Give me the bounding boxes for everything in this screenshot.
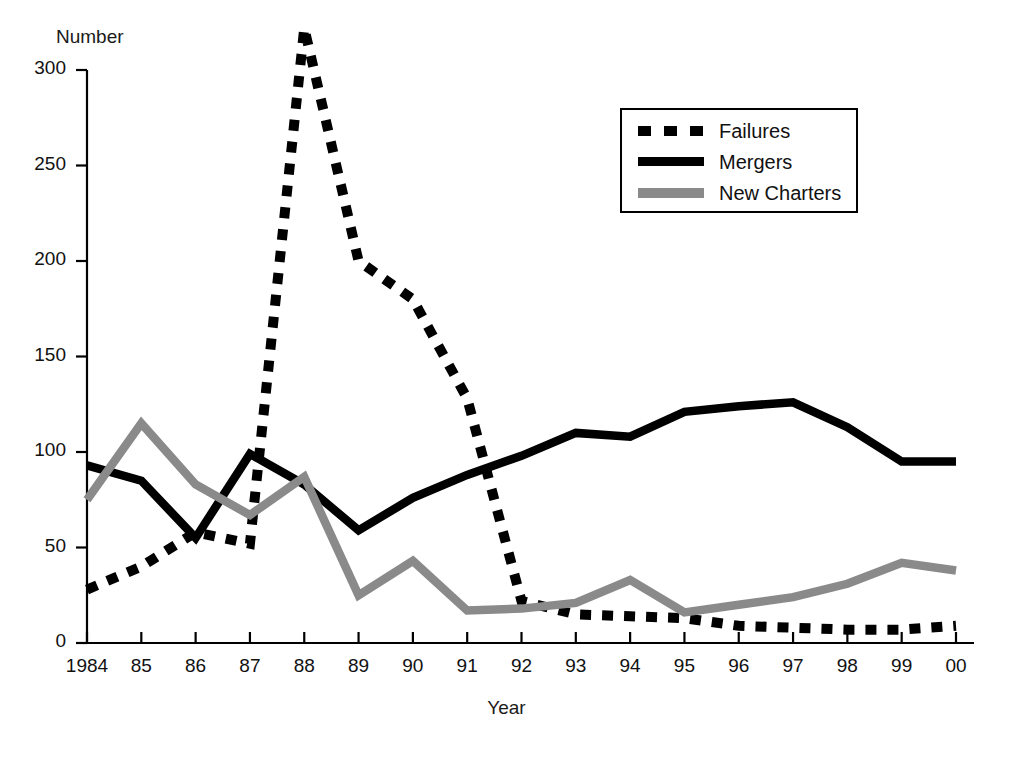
legend-swatch-solid-black-icon (638, 157, 704, 166)
legend-item-new-charters[interactable]: New Charters (622, 177, 856, 208)
legend-item-mergers[interactable]: Mergers (622, 146, 856, 177)
line-chart: Number Year 050100150200250300 198485868… (0, 0, 1013, 758)
legend-item-failures[interactable]: Failures (622, 115, 856, 146)
legend-swatch-dotted-black-icon (638, 126, 704, 136)
plot-area (0, 0, 1013, 758)
legend-item-label: New Charters (719, 183, 841, 203)
legend-item-label: Failures (719, 121, 790, 141)
chart-legend: FailuresMergersNew Charters (620, 108, 858, 213)
legend-item-label: Mergers (719, 152, 792, 172)
series-line-mergers (87, 402, 956, 538)
legend-swatch-solid-gray-icon (638, 188, 704, 198)
